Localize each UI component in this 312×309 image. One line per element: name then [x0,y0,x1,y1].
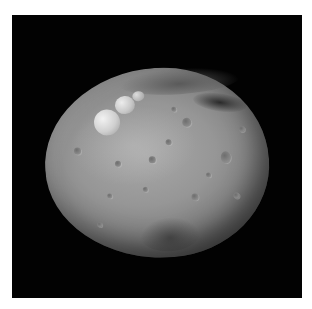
snowman-crater-large [93,109,121,137]
crater [97,222,102,227]
crater [191,193,198,200]
crater [206,172,211,177]
crater [220,151,231,164]
space-background [12,15,302,298]
crater [107,193,112,198]
snowman-crater-small [132,91,145,102]
crater [165,139,171,145]
crater [143,187,148,192]
crater [149,156,156,163]
crater [115,161,121,167]
south-basin [139,215,201,253]
crater [233,192,239,198]
asteroid [39,60,276,265]
dark-band [192,90,248,115]
crater [171,107,176,112]
crater [239,126,245,132]
crater [182,118,192,128]
crater [74,147,81,154]
